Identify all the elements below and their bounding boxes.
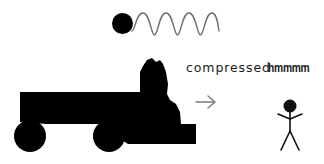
- truck-wheel-rear: [14, 120, 46, 152]
- stick-figure-head: [284, 100, 297, 113]
- truck-wheel-front: [93, 120, 125, 152]
- stick-figure-leg-right: [290, 131, 299, 150]
- stick-figure-leg-left: [281, 131, 290, 150]
- stick-figure-arm-right: [290, 114, 302, 119]
- illustration-canvas: compressed hmmmm: [0, 0, 324, 164]
- scene-vector-graphics: [0, 0, 324, 164]
- stick-figure-arm-left: [278, 114, 290, 119]
- ball-shape: [112, 13, 133, 34]
- truck-silhouette: [14, 58, 196, 152]
- spring-wave-shape: [132, 13, 219, 35]
- motion-arrow-icon: [196, 96, 215, 108]
- stick-figure-person: [278, 100, 302, 151]
